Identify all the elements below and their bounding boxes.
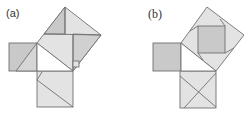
figure-b: (b) [148, 7, 244, 108]
pythagorean-dissection-diagram: (a) (b) [0, 0, 244, 118]
figure-b-label: (b) [148, 7, 162, 21]
figure-a-bottom-square [37, 71, 73, 107]
figure-a-label: (a) [6, 7, 19, 19]
figure-a: (a) [6, 7, 101, 107]
figure-a-left-square [9, 43, 37, 71]
figure-b-inner-square [198, 26, 225, 53]
figure-b-bottom-square [180, 71, 216, 108]
figure-b-left-square [153, 43, 181, 71]
